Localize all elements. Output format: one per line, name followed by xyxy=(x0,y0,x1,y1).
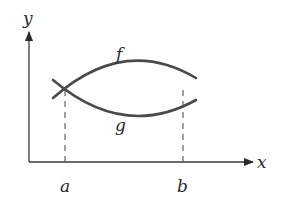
curve-g xyxy=(53,80,196,116)
area-between-curves-diagram: y x f g a b xyxy=(0,0,295,211)
x-axis-label: x xyxy=(257,152,267,172)
curve-g-label: g xyxy=(115,115,126,135)
curve-f xyxy=(53,61,196,98)
intersection-b-label: b xyxy=(177,176,188,196)
y-axis-label: y xyxy=(22,8,33,28)
intersection-a-label: a xyxy=(60,176,70,196)
